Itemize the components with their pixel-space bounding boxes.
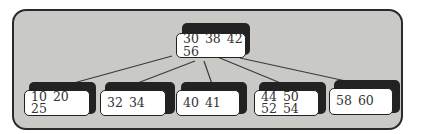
leaf-keys-1: 10 20 25 [24,90,90,116]
leaf-keys-3: 40 41 [176,90,240,116]
leaf-keys-5: 58 60 [329,88,393,115]
leaf-keys-2: 32 34 [100,90,166,116]
root-keys: 30 38 42 56 [176,33,246,58]
leaf-keys-4: 44 50 52 54 [254,90,319,116]
